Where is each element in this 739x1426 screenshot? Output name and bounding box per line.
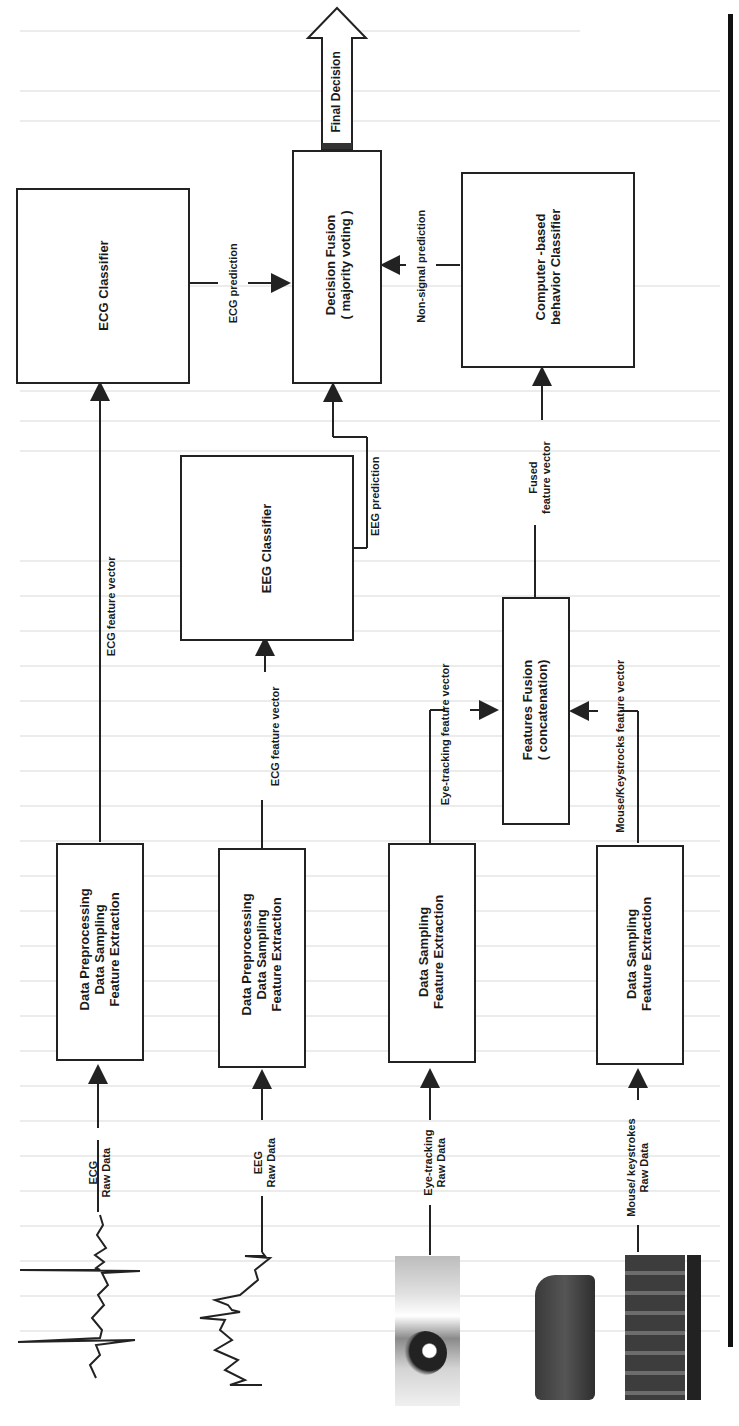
- ecg-classifier-label: ECG Classifier: [97, 187, 112, 383]
- features-fusion-label: Features Fusion ( concatenation): [521, 596, 551, 824]
- mouse-raw-data-label: Mouse/ keystrokes Raw Data: [625, 1113, 650, 1223]
- eye-feature-vector-label: Eye-tracking feature vector: [439, 659, 452, 809]
- ecg-waveform: [18, 1215, 140, 1378]
- eeg-prediction-label: EEG prediction: [369, 446, 382, 546]
- eeg-classifier-label: EEG Classifier: [260, 455, 275, 641]
- keyboard-hands-photo-icon: [535, 1255, 735, 1405]
- behavior-classifier-box: Computer -based behavior Classifier: [461, 172, 635, 368]
- ecg-prediction-label: ECG prediction: [227, 233, 240, 333]
- eye-processing-label: Data Sampling Feature Extraction: [417, 842, 447, 1062]
- eye-processing-box: Data Sampling Feature Extraction: [388, 843, 476, 1063]
- behavior-classifier-label: Computer -based behavior Classifier: [534, 169, 564, 365]
- decision-fusion-box: Decision Fusion ( majority voting ): [292, 150, 382, 384]
- ecg-processing-label: Data Preprocessing Data Sampling Feature…: [78, 840, 123, 1058]
- final-decision-label: Final Decision: [330, 42, 344, 142]
- ecg-processing-box: Data Preprocessing Data Sampling Feature…: [56, 843, 144, 1061]
- non-signal-prediction-label: Non-signal prediction: [415, 206, 428, 326]
- eeg-classifier-box: EEG Classifier: [180, 455, 354, 641]
- mouse-processing-box: Data Sampling Feature Extraction: [596, 845, 684, 1065]
- eye-photo-icon: [395, 1256, 460, 1406]
- decision-fusion-label: Decision Fusion ( majority voting ): [324, 148, 354, 382]
- fused-feature-vector-label: Fused feature vector: [527, 428, 552, 528]
- eye-raw-data-label: Eye-tracking Raw Data: [422, 1123, 447, 1203]
- ecg-raw-data-label: ECG Raw Data: [87, 1133, 112, 1213]
- eeg-processing-label: Data Preprocessing Data Sampling Feature…: [240, 844, 285, 1064]
- eeg-feature-vector-label: ECG feature vector: [269, 676, 282, 796]
- ecg-feature-vector-label: ECG feature vector: [105, 546, 118, 666]
- features-fusion-box: Features Fusion ( concatenation): [502, 597, 570, 825]
- ecg-classifier-box: ECG Classifier: [16, 188, 190, 384]
- eeg-waveform: [200, 1252, 270, 1385]
- mouse-feature-vector-label: Mouse/Keystrocks feature vector: [614, 656, 627, 836]
- eeg-raw-data-label: EEG Raw Data: [252, 1123, 277, 1203]
- eeg-processing-box: Data Preprocessing Data Sampling Feature…: [218, 848, 306, 1068]
- mouse-processing-label: Data Sampling Feature Extraction: [625, 844, 655, 1064]
